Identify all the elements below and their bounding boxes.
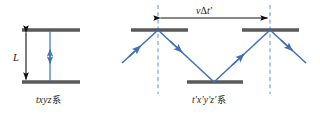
right-ray-incoming-arrowhead [129,46,141,57]
left-frame-caption: txyz系 [36,93,61,106]
right-ray-outgoing-arrowhead [281,40,293,51]
left-frame-caption-symbols: txyz [36,95,52,105]
right-frame-caption: t'x'y'z'系 [192,93,226,106]
right-ray-down-to-bottom [158,30,214,82]
right-frame-caption-symbols: t'x'y'z' [192,95,217,105]
physics-figure: L vΔt' txyz系 t'x'y'z'系 [0,0,320,124]
length-label-L: L [13,52,19,63]
left-panel-group [22,30,80,82]
distance-label-vdeltat: vΔt' [196,5,212,16]
left-frame-caption-cjk: 系 [52,95,61,105]
right-frame-caption-cjk: 系 [217,95,226,105]
right-ray-down-arrowhead [170,41,182,52]
right-panel-group [122,5,306,94]
distance-label-t-prime: t' [207,5,212,16]
right-ray-up-arrowhead [232,54,244,65]
